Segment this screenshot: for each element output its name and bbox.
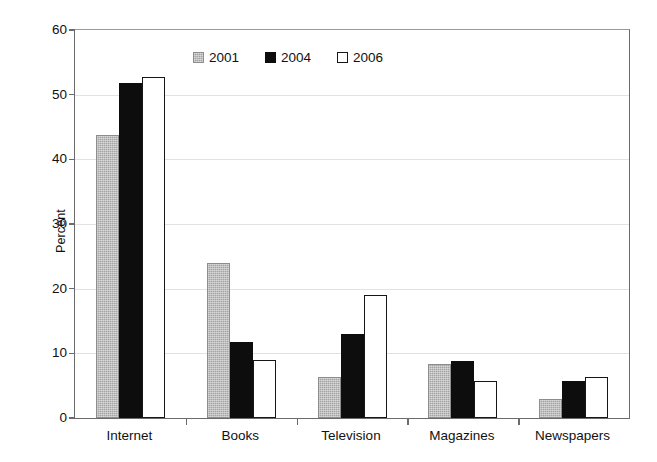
bar-group-books [207,30,276,418]
bar-internet-2001 [96,135,119,418]
legend-swatch-icon-2006 [337,52,348,63]
bar-series-container [75,30,629,418]
legend-swatch-icon-2004 [265,52,276,63]
legend-swatch-icon-2001 [193,52,204,63]
y-axis-tick-label: 60 [30,22,74,37]
y-axis-tick-label: 10 [30,345,74,360]
bar-books-2001 [207,263,230,418]
x-axis-label-television: Television [321,428,380,443]
x-axis-category-labels: InternetBooksTelevisionMagazinesNewspape… [74,428,628,452]
x-axis-label-newspapers: Newspapers [535,428,610,443]
x-axis-tickmark [407,419,408,425]
bar-group-magazines [428,30,497,418]
legend-label-2006: 2006 [353,50,383,65]
bar-books-2004 [230,342,253,418]
bar-internet-2006 [142,77,165,418]
bar-internet-2004 [119,83,142,418]
bar-television-2001 [318,377,341,418]
bar-magazines-2001 [428,364,451,418]
bar-newspapers-2004 [562,381,585,419]
legend-item-2004: 2004 [265,50,311,65]
y-axis-tick-labels: 0102030405060 [30,0,74,462]
x-axis-tickmark [297,419,298,425]
x-axis-label-internet: Internet [107,428,153,443]
bar-newspapers-2006 [585,377,608,418]
legend-item-2006: 2006 [337,50,383,65]
x-axis-label-magazines: Magazines [429,428,494,443]
legend-label-2004: 2004 [281,50,311,65]
bar-books-2006 [253,360,276,418]
chart-legend: 200120042006 [193,50,383,65]
x-axis-label-books: Books [221,428,259,443]
y-axis-tick-label: 30 [30,216,74,231]
y-axis-tick-label: 20 [30,280,74,295]
x-axis-tickmark [518,419,519,425]
x-axis-tickmark [186,419,187,425]
bar-group-television [318,30,387,418]
legend-label-2001: 2001 [209,50,239,65]
bar-television-2006 [364,295,387,418]
y-axis-tick-label: 40 [30,151,74,166]
y-axis-tick-label: 0 [30,410,74,425]
bar-magazines-2004 [451,361,474,418]
bar-group-internet [96,30,165,418]
bar-chart: Percent 0102030405060 InternetBooksTelev… [0,0,657,462]
legend-item-2001: 2001 [193,50,239,65]
plot-area [74,29,630,419]
bar-group-newspapers [539,30,608,418]
y-axis-tick-label: 50 [30,86,74,101]
bar-television-2004 [341,334,364,418]
bar-newspapers-2001 [539,399,562,418]
bar-magazines-2006 [474,381,497,419]
